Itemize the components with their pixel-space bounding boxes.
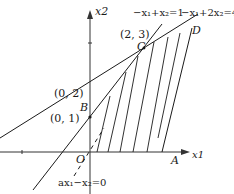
line-neg-x1-plus-2x2-eq-4 bbox=[0, 14, 198, 138]
point-B-label: B bbox=[80, 102, 88, 113]
lp-diagram: x2 x1 O (0, 2) (0, 1) B (2, 3) C D A −x₁… bbox=[0, 0, 234, 194]
point-B-marker bbox=[88, 115, 91, 118]
coord-label-0-1: (0, 1) bbox=[50, 113, 80, 124]
coord-label-2-3: (2, 3) bbox=[120, 29, 150, 40]
x1-axis-label: x1 bbox=[192, 150, 204, 160]
x2-axis-arrow-icon bbox=[87, 10, 93, 19]
point-D-label: D bbox=[192, 25, 201, 36]
x1-axis-arrow-icon bbox=[181, 149, 190, 155]
point-C-label: C bbox=[137, 41, 145, 52]
equation-objective: ax₁−x₂=0 bbox=[58, 178, 106, 188]
x2-axis-label: x2 bbox=[95, 6, 108, 17]
equation-line-2: −x₁+2x₂=4 bbox=[181, 8, 234, 18]
origin-label: O bbox=[76, 154, 85, 165]
coord-label-0-2: (0, 2) bbox=[54, 88, 84, 99]
point-A-label: A bbox=[171, 155, 179, 166]
equation-line-1: −x₁+x₂=1 bbox=[133, 8, 184, 18]
